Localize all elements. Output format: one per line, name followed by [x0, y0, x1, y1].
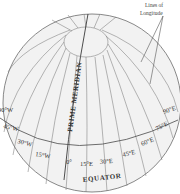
globe-diagram: Lines of Longitude PRIME MERIDIAN EQUATO…	[0, 0, 180, 194]
callout-label-line2: Longitude	[140, 10, 163, 16]
callout-label-line1: Lines of	[145, 2, 163, 8]
label-15e: 15°E	[80, 160, 93, 167]
label-30e: 30°E	[99, 157, 113, 165]
label-90w: 90°W	[0, 106, 14, 113]
label-0: 0°	[66, 158, 72, 165]
